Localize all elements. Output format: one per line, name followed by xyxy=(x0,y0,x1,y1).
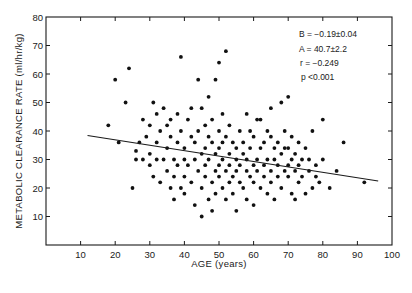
data-point xyxy=(210,118,214,122)
data-point xyxy=(248,175,252,179)
y-tick-label: 20 xyxy=(32,183,43,194)
data-point xyxy=(144,135,148,139)
data-point xyxy=(273,198,277,202)
data-point xyxy=(252,203,256,207)
data-point xyxy=(176,163,180,167)
data-point xyxy=(189,180,193,184)
x-tick-label: 80 xyxy=(318,249,329,260)
data-point xyxy=(172,158,176,162)
data-point xyxy=(162,106,166,110)
data-point xyxy=(293,169,297,173)
data-point xyxy=(234,169,238,173)
data-point xyxy=(155,158,159,162)
data-point xyxy=(245,112,249,116)
y-tick-label: 10 xyxy=(32,211,43,222)
data-point xyxy=(127,66,131,70)
scatter-chart: 102030405060708090100 1020304050607080 A… xyxy=(0,0,412,293)
data-point xyxy=(290,158,294,162)
data-point xyxy=(252,180,256,184)
x-tick-label: 30 xyxy=(145,249,156,260)
x-tick-label: 60 xyxy=(248,249,259,260)
data-point xyxy=(224,135,228,139)
x-axis-ticks: 102030405060708090100 xyxy=(75,17,400,260)
data-point xyxy=(196,169,200,173)
data-point xyxy=(279,101,283,105)
data-point xyxy=(231,141,235,145)
data-point xyxy=(210,180,214,184)
data-point xyxy=(155,141,159,145)
data-point xyxy=(255,158,259,162)
data-point xyxy=(279,152,283,156)
data-point xyxy=(283,146,287,150)
data-point xyxy=(165,123,169,127)
data-point xyxy=(259,146,263,150)
data-point xyxy=(186,118,190,122)
data-point xyxy=(300,158,304,162)
data-point xyxy=(238,163,242,167)
data-point xyxy=(286,146,290,150)
data-point xyxy=(179,129,183,133)
data-point xyxy=(321,118,325,122)
data-point xyxy=(335,169,339,173)
y-tick-label: 50 xyxy=(32,97,43,108)
data-point xyxy=(224,198,228,202)
data-point xyxy=(148,123,152,127)
y-tick-label: 70 xyxy=(32,40,43,51)
data-point xyxy=(207,95,211,99)
data-point xyxy=(311,186,315,190)
data-point xyxy=(342,141,346,145)
data-point xyxy=(172,198,176,202)
data-point xyxy=(158,129,162,133)
x-tick-label: 90 xyxy=(352,249,363,260)
y-tick-label: 60 xyxy=(32,69,43,80)
data-point xyxy=(172,175,176,179)
data-point xyxy=(290,192,294,196)
data-point xyxy=(290,135,294,139)
data-point xyxy=(300,175,304,179)
data-point xyxy=(241,186,245,190)
stat-slope: B = −0.19±0.04 xyxy=(299,29,357,39)
data-point xyxy=(266,129,270,133)
y-tick-label: 30 xyxy=(32,154,43,165)
data-point xyxy=(221,112,225,116)
data-point xyxy=(311,129,315,133)
data-point xyxy=(217,163,221,167)
data-point xyxy=(362,180,366,184)
stat-pvalue: p <0.001 xyxy=(301,72,335,82)
data-point xyxy=(148,163,152,167)
data-point xyxy=(228,123,232,127)
data-point xyxy=(134,149,138,153)
data-point xyxy=(210,209,214,213)
y-axis-title: METABOLIC CLEARANCE RATE (ml/hr/kg) xyxy=(13,33,24,228)
data-point xyxy=(238,129,242,133)
x-tick-label: 20 xyxy=(110,249,121,260)
data-point xyxy=(262,175,266,179)
data-point xyxy=(238,180,242,184)
data-point xyxy=(106,123,110,127)
data-point xyxy=(169,186,173,190)
data-point xyxy=(217,129,221,133)
data-point xyxy=(259,118,263,122)
data-point xyxy=(141,158,145,162)
data-point xyxy=(297,180,301,184)
data-point xyxy=(183,146,187,150)
data-point xyxy=(176,112,180,116)
data-point xyxy=(304,146,308,150)
data-point xyxy=(234,209,238,213)
data-point xyxy=(273,146,277,150)
data-point xyxy=(221,158,225,162)
data-point xyxy=(196,129,200,133)
data-point xyxy=(189,106,193,110)
data-point xyxy=(131,186,135,190)
x-tick-label: 10 xyxy=(75,249,86,260)
data-point xyxy=(221,141,225,145)
y-tick-label: 40 xyxy=(32,126,43,137)
data-point xyxy=(259,186,263,190)
data-point xyxy=(252,135,256,139)
data-point xyxy=(269,106,273,110)
data-point xyxy=(155,112,159,116)
data-point xyxy=(283,129,287,133)
data-point xyxy=(221,186,225,190)
data-point xyxy=(273,158,277,162)
data-point xyxy=(141,118,145,122)
